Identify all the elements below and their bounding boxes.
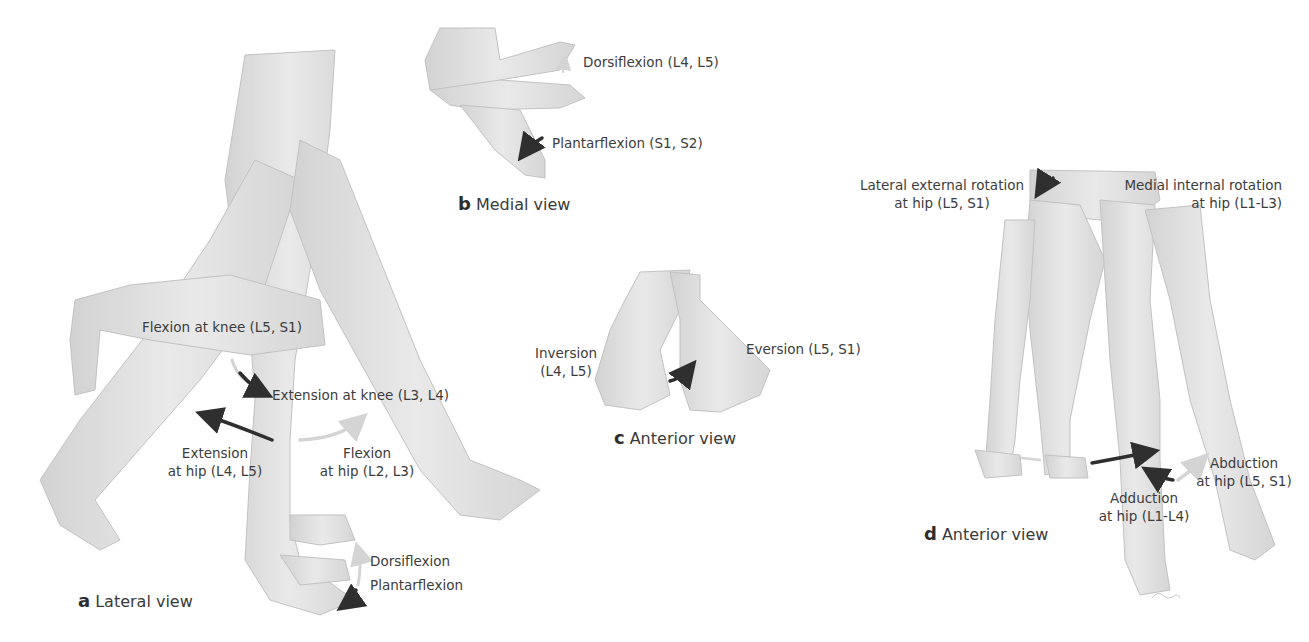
label-medial-rotation: Medial internal rotation at hip (L1-L3) (1100, 176, 1282, 212)
panel-c-feet (595, 270, 770, 412)
label-adduction-line2: at hip (L1-L4) (1094, 507, 1194, 525)
label-plantarflexion-b: Plantarflexion (S1, S2) (552, 134, 703, 152)
panel-letter-c: c (614, 427, 625, 448)
label-adduction-line1: Adduction (1094, 489, 1194, 507)
label-flexion-knee: Flexion at knee (L5, S1) (142, 318, 302, 336)
caption-panel-a: aLateral view (78, 590, 193, 611)
caption-text-c: Anterior view (630, 429, 737, 448)
caption-text-a: Lateral view (95, 592, 193, 611)
label-flexion-hip-line2: at hip (L2, L3) (312, 462, 422, 480)
caption-text-b: Medial view (476, 195, 570, 214)
label-flexion-hip-line1: Flexion (312, 444, 422, 462)
panel-letter-a: a (78, 590, 90, 611)
arrow-hip-flexion (300, 420, 360, 440)
panel-letter-d: d (924, 523, 937, 544)
label-extension-hip-line2: at hip (L4, L5) (160, 462, 270, 480)
label-abduction-line1: Abduction (1194, 454, 1294, 472)
label-extension-hip: Extension at hip (L4, L5) (160, 444, 270, 480)
label-extension-hip-line1: Extension (160, 444, 270, 462)
label-lateral-rotation-line2: at hip (L5, S1) (852, 194, 1032, 212)
label-dorsiflexion-a: Dorsiflexion (370, 552, 450, 570)
label-adduction: Adduction at hip (L1-L4) (1094, 489, 1194, 525)
label-medial-rotation-line1: Medial internal rotation (1100, 176, 1282, 194)
label-abduction-line2: at hip (L5, S1) (1194, 472, 1294, 490)
label-medial-rotation-line2: at hip (L1-L3) (1100, 194, 1282, 212)
caption-panel-b: bMedial view (458, 193, 570, 214)
artist-signature (1152, 593, 1180, 598)
caption-text-d: Anterior view (942, 525, 1049, 544)
caption-panel-c: cAnterior view (614, 427, 736, 448)
label-flexion-hip: Flexion at hip (L2, L3) (312, 444, 422, 480)
label-extension-knee: Extension at knee (L3, L4) (272, 386, 449, 404)
label-eversion: Eversion (L5, S1) (746, 340, 861, 358)
label-lateral-rotation: Lateral external rotation at hip (L5, S1… (852, 176, 1032, 212)
caption-panel-d: dAnterior view (924, 523, 1048, 544)
arrow-abduction-left (1022, 458, 1040, 460)
label-inversion-line2: (L4, L5) (530, 362, 602, 380)
panel-letter-b: b (458, 193, 471, 214)
label-plantarflexion-a: Plantarflexion (370, 576, 463, 594)
label-inversion-line1: Inversion (530, 344, 602, 362)
label-lateral-rotation-line1: Lateral external rotation (852, 176, 1032, 194)
arrow-ankle-dorsiflexion (358, 550, 360, 585)
label-dorsiflexion-b: Dorsiflexion (L4, L5) (583, 53, 719, 71)
label-inversion: Inversion (L4, L5) (530, 344, 602, 380)
panel-b-feet (425, 28, 585, 178)
label-abduction: Abduction at hip (L5, S1) (1194, 454, 1294, 490)
